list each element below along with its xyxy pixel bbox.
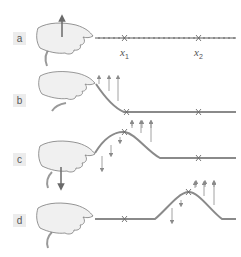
x2-label: x2 (193, 46, 203, 60)
rope-tail (47, 172, 52, 188)
rope (95, 192, 236, 219)
panel-c (39, 122, 236, 188)
panel-label-a: a (13, 32, 26, 45)
rope (95, 132, 236, 158)
rope-tail (52, 103, 66, 111)
panel-label-c: c (13, 153, 26, 166)
hand-icon (39, 72, 95, 100)
x1-label: x1 (119, 46, 129, 60)
hand-icon (39, 141, 95, 172)
rope-tail (47, 232, 52, 248)
panel-a: x1 x2 (37, 18, 236, 66)
panel-label-d: d (13, 214, 26, 227)
panel-d (37, 183, 236, 248)
rope (96, 84, 236, 112)
hand-icon (37, 23, 93, 54)
panel-b (39, 72, 236, 128)
wave-diagram: x1 x2 (0, 0, 241, 257)
hand-icon (37, 203, 93, 234)
panel-label-b: b (13, 94, 26, 107)
